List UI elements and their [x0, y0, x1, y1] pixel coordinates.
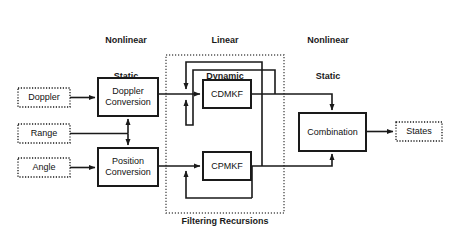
header-nonlinear-static-left-line1: Nonlinear [86, 34, 166, 46]
input-angle-border[interactable] [18, 158, 70, 177]
header-linear-dynamic: Linear Dynamic [185, 10, 265, 106]
header-linear-dynamic-line1: Linear [185, 34, 265, 46]
block-cpmkf-border[interactable] [203, 152, 251, 180]
header-nonlinear-static-right: Nonlinear Static [288, 10, 368, 106]
input-doppler-border[interactable] [18, 88, 70, 107]
group-filtering-recursions-label: Filtering Recursions [166, 216, 284, 226]
header-nonlinear-static-right-line2: Static [288, 70, 368, 82]
header-nonlinear-static-left-line2: Static [86, 70, 166, 82]
output-states-border[interactable] [396, 122, 442, 141]
header-nonlinear-static-right-line1: Nonlinear [288, 34, 368, 46]
block-position-conversion-border[interactable] [98, 148, 158, 186]
wire-cpmkf-to-combination [251, 154, 332, 166]
header-nonlinear-static-left: Nonlinear Static [86, 10, 166, 106]
diagram-canvas: Nonlinear Static Linear Dynamic Nonlinea… [0, 0, 458, 236]
header-linear-dynamic-line2: Dynamic [185, 70, 265, 82]
block-combination-border[interactable] [299, 113, 366, 151]
input-range-border[interactable] [18, 124, 70, 143]
